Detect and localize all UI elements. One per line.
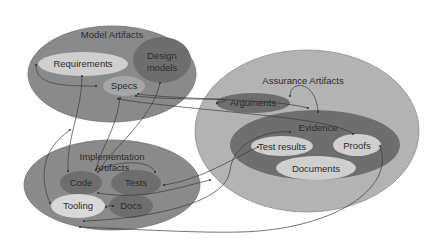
tests-label: Tests (125, 177, 147, 188)
model-artifacts-title: Model Artifacts (81, 29, 144, 40)
proofs-label: Proofs (343, 140, 371, 151)
implementation-artifacts-title-line2: Artifacts (95, 162, 130, 173)
implementation-artifacts-title-line1: Implementation (80, 151, 145, 162)
specs-label: Specs (111, 80, 138, 91)
assurance-artifacts-title: Assurance Artifacts (262, 75, 344, 86)
documents-label: Documents (292, 163, 340, 174)
design-models-label-line2: models (147, 62, 178, 73)
tooling-label: Tooling (63, 200, 93, 211)
test-results-label: Test results (258, 141, 306, 152)
design-models-label-line1: Design (147, 50, 177, 61)
code-label: Code (70, 177, 93, 188)
docs-label: Docs (120, 200, 142, 211)
requirements-label: Requirements (53, 58, 112, 69)
artifact-relationship-diagram: Model Artifacts Requirements Design mode… (0, 0, 428, 242)
arguments-label: Arguments (230, 97, 276, 108)
evidence-title: Evidence (298, 122, 337, 133)
